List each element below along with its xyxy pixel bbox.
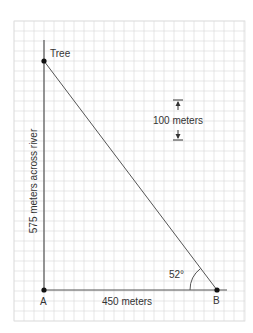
arrow-down-icon — [176, 134, 181, 139]
point-a — [41, 287, 46, 292]
point-b — [214, 287, 219, 292]
horizontal-side-label: 450 meters — [102, 296, 152, 307]
scale-label: 100 meters — [153, 115, 203, 126]
triangle-diagram: Tree A B 450 meters 52° 575 meters acros… — [0, 0, 253, 333]
arrow-up-icon — [176, 101, 181, 106]
tree-point — [41, 58, 46, 63]
point-b-label: B — [213, 295, 220, 306]
angle-label: 52° — [169, 269, 184, 280]
hypotenuse-line — [44, 61, 217, 290]
tree-label: Tree — [50, 48, 71, 59]
graph-paper-grid — [14, 21, 245, 321]
angle-arc — [190, 268, 201, 290]
point-a-label: A — [40, 296, 47, 307]
scale-indicator: 100 meters — [153, 100, 203, 140]
vertical-side-label: 575 meters across river — [28, 128, 39, 233]
